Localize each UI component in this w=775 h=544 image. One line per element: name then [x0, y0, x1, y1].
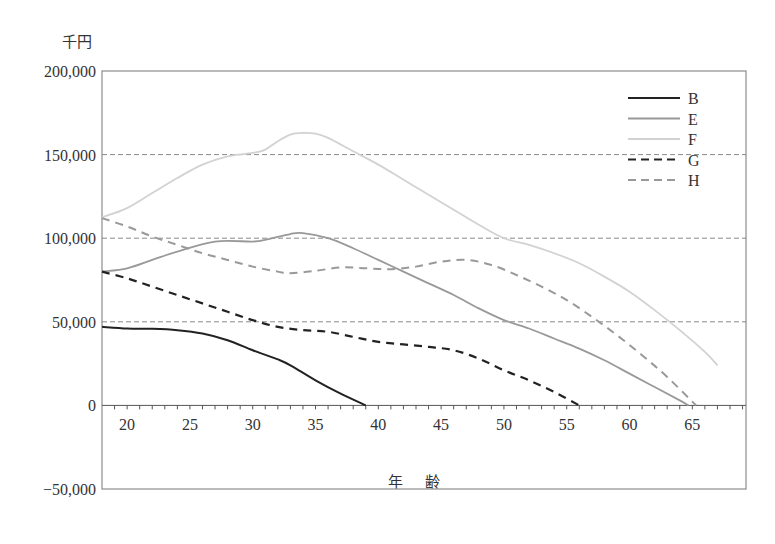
- series-line-H: [102, 218, 696, 405]
- y-tick-label: 100,000: [44, 230, 96, 247]
- legend-label-G: G: [688, 152, 700, 169]
- x-tick-label: 45: [433, 416, 449, 433]
- grid-lines: [102, 155, 746, 322]
- x-tick-label: 30: [245, 416, 261, 433]
- x-tick-label: 40: [370, 416, 386, 433]
- legend-label-H: H: [688, 172, 700, 189]
- x-tick-label: 20: [119, 416, 135, 433]
- series-line-F: [102, 133, 717, 365]
- y-tick-label: 150,000: [44, 147, 96, 164]
- data-series: [102, 133, 717, 406]
- x-tick-label: 60: [622, 416, 638, 433]
- line-chart: 20253035404550556065−50,000050,000100,00…: [0, 0, 775, 544]
- legend: BEFGH: [628, 90, 700, 189]
- legend-label-F: F: [688, 131, 697, 148]
- x-tick-label: 25: [182, 416, 198, 433]
- x-tick-label: 50: [496, 416, 512, 433]
- legend-label-E: E: [688, 111, 698, 128]
- y-tick-label: 50,000: [52, 314, 96, 331]
- series-line-G: [102, 272, 579, 406]
- y-tick-label: 200,000: [44, 63, 96, 80]
- axes: 20253035404550556065−50,000050,000100,00…: [43, 63, 746, 498]
- y-tick-label: −50,000: [43, 481, 96, 498]
- y-tick-label: 0: [88, 397, 96, 414]
- x-tick-label: 65: [684, 416, 700, 433]
- series-line-E: [102, 233, 689, 406]
- x-tick-label: 35: [308, 416, 324, 433]
- series-line-B: [102, 327, 366, 406]
- x-tick-label: 55: [559, 416, 575, 433]
- legend-label-B: B: [688, 90, 699, 107]
- plot-frame: [102, 71, 746, 489]
